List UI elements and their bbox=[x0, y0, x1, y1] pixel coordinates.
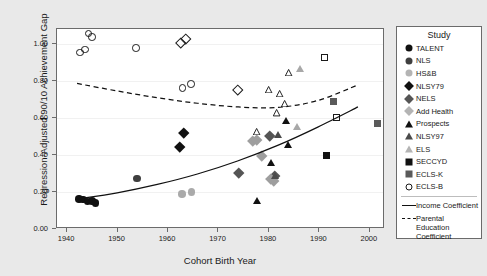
x-tick bbox=[167, 228, 168, 232]
y-tick bbox=[52, 117, 56, 118]
legend-line-solid[interactable]: Income Coefficient bbox=[397, 201, 481, 210]
circle-icon bbox=[402, 55, 416, 67]
legend-item-nlsy97[interactable]: NLSY97 bbox=[397, 130, 481, 143]
legend-title: Study bbox=[397, 30, 481, 40]
legend-item-label: HS&B bbox=[416, 69, 436, 78]
y-tick bbox=[52, 80, 56, 81]
legend-item-label: NELS bbox=[416, 94, 436, 103]
legend-item-ecls-b[interactable]: ECLS-B bbox=[397, 181, 481, 194]
legend-item-label: ECLS-B bbox=[416, 182, 443, 191]
diamond-icon bbox=[402, 93, 416, 105]
legend-item-label: Add Health bbox=[416, 107, 453, 116]
x-tick-label: 1950 bbox=[97, 234, 137, 243]
legend-item-nls[interactable]: NLS bbox=[397, 55, 481, 68]
y-tick bbox=[52, 154, 56, 155]
gridline-y bbox=[57, 44, 383, 45]
x-tick-label: 1960 bbox=[147, 234, 187, 243]
square-icon bbox=[402, 168, 416, 180]
y-tick-label: 0.00 bbox=[14, 224, 48, 233]
triangle-icon bbox=[402, 130, 416, 142]
fit-line-solid bbox=[77, 107, 358, 199]
legend-item-add-health[interactable]: Add Health bbox=[397, 105, 481, 118]
y-tick-label: 0.40 bbox=[14, 150, 48, 159]
legend-item-label: NLSY79 bbox=[416, 82, 444, 91]
legend-line-label: Parental Education Coefficient bbox=[416, 214, 478, 241]
diamond-icon bbox=[402, 105, 416, 117]
x-axis-title: Cohort Birth Year bbox=[56, 255, 384, 266]
legend-item-label: Prospects bbox=[416, 119, 449, 128]
triangle-icon bbox=[402, 143, 416, 155]
legend-item-label: NLS bbox=[416, 56, 431, 65]
legend-item-ecls-k[interactable]: ECLS-K bbox=[397, 168, 481, 181]
circle-icon bbox=[402, 67, 416, 79]
legend-item-talent[interactable]: TALENT bbox=[397, 42, 481, 55]
x-tick-label: 1980 bbox=[248, 234, 288, 243]
x-tick bbox=[268, 228, 269, 232]
gridline-y bbox=[57, 81, 383, 82]
legend-divider bbox=[401, 196, 477, 197]
gridline-y bbox=[57, 192, 383, 193]
legend-item-els[interactable]: ELS bbox=[397, 143, 481, 156]
y-axis-title: Regression-Adjusted 90/10 Achievement Ga… bbox=[38, 5, 49, 215]
x-tick bbox=[318, 228, 319, 232]
triangle-icon bbox=[402, 118, 416, 130]
legend-line-entries: Income CoefficientParental Education Coe… bbox=[397, 201, 481, 241]
legend-item-label: TALENT bbox=[416, 44, 444, 53]
dashed-line-icon bbox=[402, 214, 416, 223]
figure-scatter-achievement-gap: Regression-Adjusted 90/10 Achievement Ga… bbox=[0, 0, 487, 276]
circle-open-icon bbox=[402, 181, 416, 193]
legend-line-dashed[interactable]: Parental Education Coefficient bbox=[397, 214, 481, 241]
fit-line-dashed bbox=[77, 83, 358, 108]
y-tick-label: 0.80 bbox=[14, 76, 48, 85]
legend-item-hs-b[interactable]: HS&B bbox=[397, 67, 481, 80]
y-tick bbox=[52, 228, 56, 229]
legend-item-label: SECCYD bbox=[416, 157, 447, 166]
y-tick bbox=[52, 43, 56, 44]
y-tick bbox=[52, 191, 56, 192]
fit-curves bbox=[57, 29, 383, 227]
x-tick-label: 1990 bbox=[298, 234, 338, 243]
legend-entries: TALENTNLSHS&BNLSY79NELSAdd HealthProspec… bbox=[397, 42, 481, 193]
solid-line-icon bbox=[402, 201, 416, 210]
legend-item-label: ECLS-K bbox=[416, 170, 443, 179]
y-tick-label: 0.20 bbox=[14, 187, 48, 196]
legend-item-seccyd[interactable]: SECCYD bbox=[397, 155, 481, 168]
diamond-icon bbox=[402, 80, 416, 92]
circle-icon bbox=[402, 42, 416, 54]
legend: Study TALENTNLSHS&BNLSY79NELSAdd HealthP… bbox=[396, 26, 482, 239]
x-tick bbox=[66, 228, 67, 232]
legend-line-label: Income Coefficient bbox=[416, 201, 478, 210]
legend-item-nels[interactable]: NELS bbox=[397, 92, 481, 105]
x-tick bbox=[217, 228, 218, 232]
gridline-y bbox=[57, 155, 383, 156]
legend-item-label: ELS bbox=[416, 145, 430, 154]
x-tick-label: 2000 bbox=[349, 234, 389, 243]
legend-item-label: NLSY97 bbox=[416, 132, 444, 141]
plot-area bbox=[56, 28, 384, 228]
square-icon bbox=[402, 156, 416, 168]
y-tick-label: 1.00 bbox=[14, 39, 48, 48]
x-tick-label: 1970 bbox=[197, 234, 237, 243]
x-tick bbox=[117, 228, 118, 232]
x-tick bbox=[369, 228, 370, 232]
legend-item-nlsy79[interactable]: NLSY79 bbox=[397, 80, 481, 93]
y-tick-label: 0.60 bbox=[14, 113, 48, 122]
x-tick-label: 1940 bbox=[46, 234, 86, 243]
legend-item-prospects[interactable]: Prospects bbox=[397, 118, 481, 131]
